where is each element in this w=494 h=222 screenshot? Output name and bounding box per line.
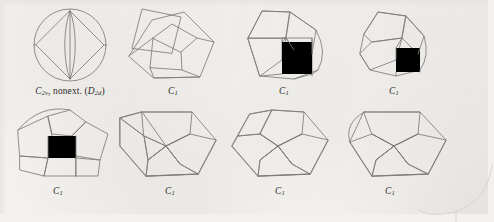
left-lower-cell [232,134,278,176]
spoke-down-right [394,146,408,164]
caption-3-group-sub: 1 [286,89,289,96]
spoke-down-left [148,146,166,160]
caption-1-close: ) [102,86,105,96]
top-cell [260,110,304,146]
top-cell [142,112,192,146]
spoke-right [394,134,418,146]
spoke-right [166,134,190,146]
top-cell [48,110,86,136]
schlegel-diagram-1 [28,6,112,84]
schlegel-diagram-8 [342,106,454,182]
caption-figure-6: C1 [130,186,210,196]
right-lower-cell [166,134,216,174]
left-lower-cell [120,118,148,176]
schlegel-diagram-2 [126,8,220,84]
edge-center-vertical [181,52,182,70]
bottom-right-cell [76,158,100,176]
caption-1-note: , nonext. ( [48,86,88,96]
bottom-cell [258,146,310,176]
schlegel-diagram-7 [230,106,334,182]
upper-left-cell [248,11,290,38]
schlegel-diagram-4 [352,8,438,84]
right-cell [72,122,108,160]
spoke-down-left [260,146,278,160]
upper-left-cell [364,12,406,42]
join-square-upper [396,38,402,48]
inner-square-shape [282,42,312,74]
caption-7-group-sub: 1 [282,189,285,196]
bottom-edge [258,174,310,176]
lower-cell-base [150,68,200,78]
inner-cell-upper [153,24,197,52]
bottom-edge [372,174,428,176]
schlegel-diagram-3 [238,8,330,84]
left-cell [350,134,394,176]
bottom-edge [146,174,198,176]
bottom-left-cell [20,156,48,176]
caption-figure-1: C2v, nonext. (D2d) [0,86,140,96]
caption-1-alt-group-sub: 2d [95,89,102,96]
lens-right [70,11,75,79]
bottom-left-connect [44,158,48,176]
caption-1-alt-group: D [88,86,95,96]
center-square [48,136,76,158]
bottom-cell [372,146,428,176]
caption-figure-8: C1 [350,186,430,196]
caption-6-group-sub: 1 [172,189,175,196]
spoke-down-left [376,146,394,160]
outer-boundary [129,12,214,78]
top-cell [364,112,420,146]
lens-left [65,11,70,79]
left-upper-cell [238,110,272,136]
caption-figure-4: C1 [348,86,440,96]
caption-figure-3: C1 [238,86,330,96]
spoke-down-right [278,146,292,164]
schlegel-diagram-6 [118,106,222,182]
left-cell [248,38,286,76]
spoke-right [278,134,302,146]
spoke-left [372,134,394,146]
caption-5-group-sub: 1 [60,189,63,196]
edge-lower-left [150,38,153,68]
left-cell [18,116,52,158]
caption-figure-5: C1 [18,186,98,196]
inner-square [396,48,420,72]
join-bottom-left [260,74,282,76]
caption-2-group-sub: 1 [175,89,178,96]
caption-4-group-sub: 1 [396,89,399,96]
join-bottom-right [294,74,312,79]
right-cell [394,134,446,174]
caption-8-group-sub: 1 [392,189,395,196]
spoke-down-right [166,146,180,164]
caption-figure-2: C1 [125,86,221,96]
spoke-left [260,134,278,146]
overlapping-square [132,9,181,53]
bottom-cell [146,146,198,176]
caption-figure-7: C1 [240,186,320,196]
right-lower-cell [278,134,328,174]
schlegel-diagram-5 [14,106,118,178]
